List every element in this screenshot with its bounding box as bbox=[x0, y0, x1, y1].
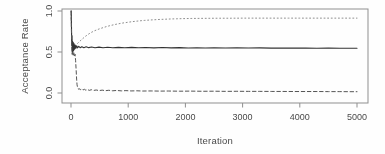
x-tick-label: 5000 bbox=[347, 112, 367, 122]
y-tick-label: 0.0 bbox=[44, 87, 54, 100]
x-tick-label: 0 bbox=[68, 112, 73, 122]
x-tick-label: 2000 bbox=[175, 112, 195, 122]
series-middle-acceptance-solid bbox=[71, 11, 357, 54]
chart-canvas: 0100020003000400050000.00.51.0 bbox=[0, 0, 385, 154]
series-upper-acceptance-dotted bbox=[71, 11, 357, 50]
y-axis-label: Acceptance Rate bbox=[19, 18, 30, 93]
figure: 0100020003000400050000.00.51.0 Acceptanc… bbox=[0, 0, 385, 154]
x-tick-label: 4000 bbox=[290, 112, 310, 122]
series-lower-acceptance-dashed bbox=[71, 11, 357, 92]
x-tick-label: 3000 bbox=[233, 112, 253, 122]
x-axis-label: Iteration bbox=[197, 135, 233, 146]
x-tick-label: 1000 bbox=[118, 112, 138, 122]
y-tick-label: 1.0 bbox=[44, 5, 54, 18]
y-tick-label: 0.5 bbox=[44, 46, 54, 59]
plot-box bbox=[62, 9, 368, 103]
